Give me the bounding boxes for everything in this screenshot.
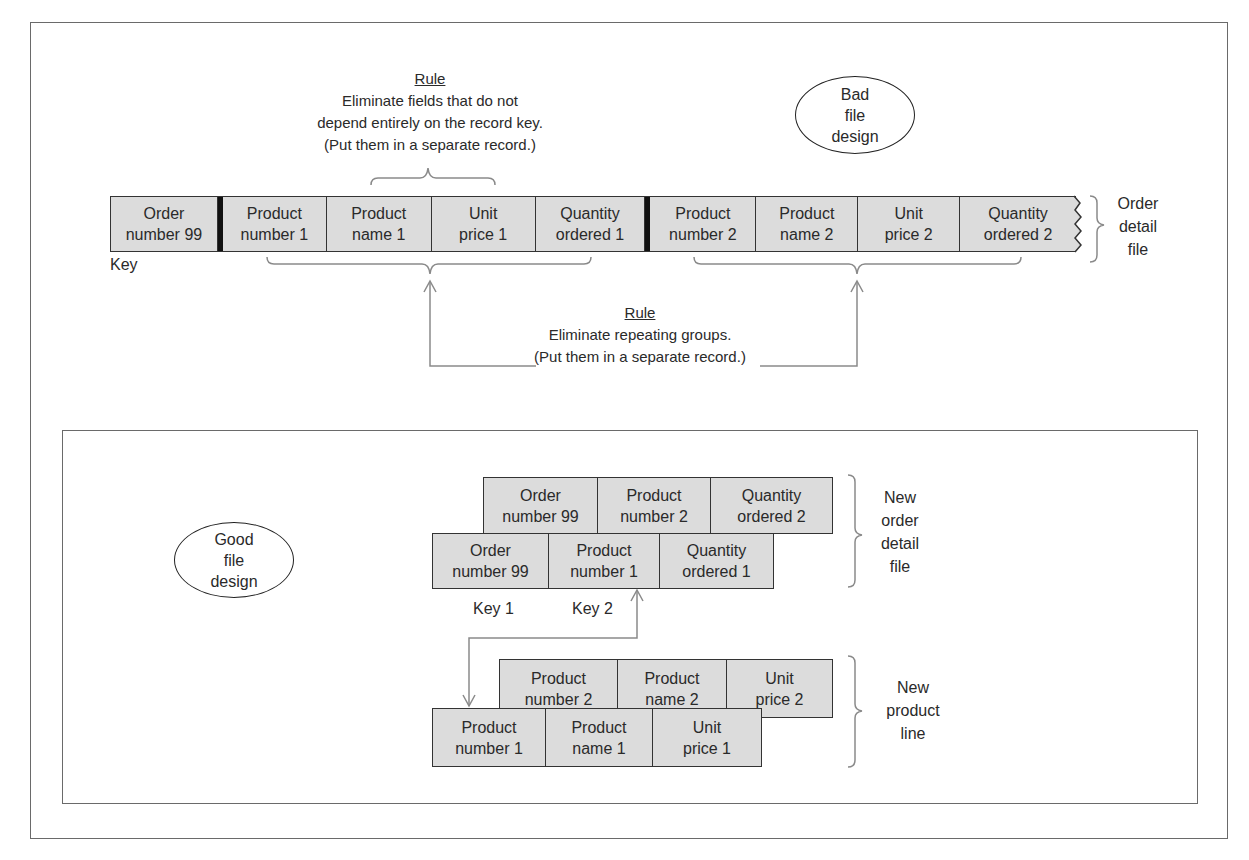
field-quantity-ordered-2: Quantity ordered 2 [960,197,1076,251]
field-label: price 1 [459,224,507,245]
field-label: number 2 [669,224,737,245]
field-product-number-2: Product number 2 [598,478,711,533]
field-label: name 1 [572,738,625,759]
field-unit-price-1: Unit price 1 [653,709,761,766]
field-label: number 2 [525,689,593,710]
field-quantity-ordered-2: Quantity ordered 2 [711,478,832,533]
order-detail-file-label: Order detail file [1108,192,1168,261]
label-line: New [870,486,930,509]
rule-2-title: Rule [480,302,800,324]
field-label: Order [143,203,184,224]
key-1-label: Key 1 [473,600,514,618]
bad-file-design-badge: Bad file design [795,76,915,154]
field-label: ordered 1 [556,224,625,245]
field-label: number 1 [570,561,638,582]
field-product-number-1: Product number 1 [549,534,660,588]
field-label: Quantity [988,203,1048,224]
field-label: price 2 [885,224,933,245]
label-line: detail [870,532,930,555]
new-product-line-label: New product line [878,676,948,745]
label-line: New [878,676,948,699]
field-order-number-99: Order number 99 [433,534,549,588]
field-label: Quantity [742,485,802,506]
label-line: Order [1108,192,1168,215]
field-label: Product [571,717,626,738]
field-label: Unit [469,203,497,224]
order-detail-record: Order number 99 Product number 1 Product… [110,196,1076,252]
field-label: Unit [693,717,721,738]
field-label: Unit [894,203,922,224]
field-label: number 99 [502,506,579,527]
badge-line: design [210,571,257,592]
rule-1-line-1: Eliminate fields that do not [270,90,590,112]
label-line: file [1108,238,1168,261]
label-line: detail [1108,215,1168,238]
field-product-name-2: Product name 2 [756,197,858,251]
rule-1-title: Rule [270,68,590,90]
field-product-number-1: Product number 1 [433,709,546,766]
field-product-name-1: Product name 1 [327,197,432,251]
new-order-detail-record-2: Order number 99 Product number 2 Quantit… [483,477,833,534]
key-label: Key [110,256,138,274]
rule-2-line-1: Eliminate repeating groups. [480,324,800,346]
field-label: number 1 [241,224,309,245]
good-file-design-badge: Good file design [174,522,294,598]
field-label: Product [576,540,631,561]
field-label: price 2 [755,689,803,710]
field-label: number 1 [455,738,523,759]
field-label: Quantity [560,203,620,224]
field-label: Product [675,203,730,224]
field-quantity-ordered-1: Quantity ordered 1 [660,534,773,588]
field-label: ordered 2 [737,506,806,527]
field-label: Product [531,668,586,689]
field-label: name 1 [352,224,405,245]
field-label: Quantity [687,540,747,561]
field-label: number 99 [126,224,203,245]
rule-1: Rule Eliminate fields that do not depend… [270,68,590,156]
field-label: Product [351,203,406,224]
field-label: ordered 1 [682,561,751,582]
field-label: ordered 2 [984,224,1053,245]
rule-1-line-3: (Put them in a separate record.) [270,134,590,156]
label-line: line [878,722,948,745]
badge-line: design [831,126,878,147]
field-label: price 1 [683,738,731,759]
field-label: name 2 [780,224,833,245]
field-label: Unit [765,668,793,689]
field-order-number-99: Order number 99 [111,197,218,251]
field-label: Product [461,717,516,738]
field-order-number-99: Order number 99 [484,478,598,533]
field-label: number 2 [620,506,688,527]
rule-1-line-2: depend entirely on the record key. [270,112,590,134]
field-label: name 2 [645,689,698,710]
new-order-detail-record-1: Order number 99 Product number 1 Quantit… [432,533,774,589]
field-label: Product [247,203,302,224]
rule-2-line-2: (Put them in a separate record.) [532,346,748,368]
field-label: Product [644,668,699,689]
field-label: Order [470,540,511,561]
rule-2: Rule Eliminate repeating groups. (Put th… [480,302,800,368]
label-line: order [870,509,930,532]
field-label: Product [779,203,834,224]
field-product-name-1: Product name 1 [546,709,653,766]
field-label: number 99 [452,561,529,582]
field-label: Order [520,485,561,506]
field-label: Product [626,485,681,506]
badge-line: Bad [841,84,869,105]
label-line: product [878,699,948,722]
field-quantity-ordered-1: Quantity ordered 1 [536,197,646,251]
field-product-number-1: Product number 1 [218,197,327,251]
badge-line: file [224,550,244,571]
field-unit-price-2: Unit price 2 [858,197,960,251]
new-product-record-1: Product number 1 Product name 1 Unit pri… [432,708,762,767]
field-product-number-2: Product number 2 [645,197,756,251]
new-order-detail-file-label: New order detail file [870,486,930,578]
key-2-label: Key 2 [572,600,613,618]
field-unit-price-1: Unit price 1 [432,197,536,251]
label-line: file [870,555,930,578]
badge-line: Good [214,529,253,550]
badge-line: file [845,105,865,126]
